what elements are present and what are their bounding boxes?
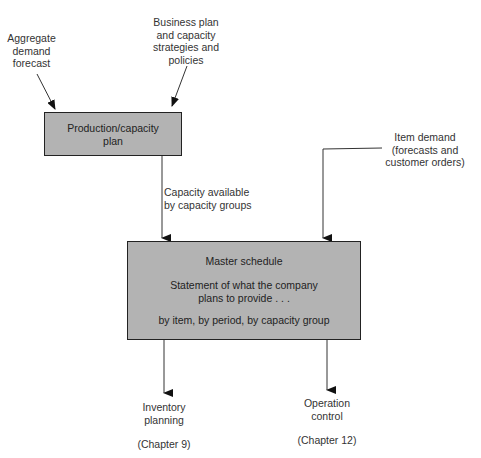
label-line: control bbox=[296, 410, 358, 423]
label-line: Business plan bbox=[146, 16, 226, 29]
label-line: and capacity bbox=[146, 29, 226, 42]
chapter-ref: (Chapter 9) bbox=[134, 438, 194, 451]
inventory-planning-label: Inventory planning (Chapter 9) bbox=[134, 401, 194, 451]
master-schedule-detail: by item, by period, by capacity group bbox=[128, 314, 360, 327]
aggregate-demand-label: Aggregate demand forecast bbox=[4, 32, 59, 70]
capacity-available-label: Capacity available by capacity groups bbox=[164, 186, 254, 211]
connector-arrows bbox=[0, 0, 481, 458]
business-plan-label: Business plan and capacity strategies an… bbox=[146, 16, 226, 66]
label-line: Inventory bbox=[134, 401, 194, 414]
label-line: Aggregate bbox=[4, 32, 59, 45]
operation-control-label: Operation control (Chapter 12) bbox=[296, 397, 358, 447]
production-capacity-plan-box: Production/capacity plan bbox=[44, 112, 182, 156]
box-line: plan bbox=[45, 135, 181, 148]
box-line: Statement of what the company bbox=[128, 279, 360, 292]
label-line: planning bbox=[134, 414, 194, 427]
label-line: forecast bbox=[4, 57, 59, 70]
label-line: policies bbox=[146, 54, 226, 67]
label-line: Capacity available bbox=[164, 186, 254, 199]
chapter-ref: (Chapter 12) bbox=[296, 434, 358, 447]
master-schedule-box: Master schedule Statement of what the co… bbox=[127, 241, 361, 340]
label-line: Operation bbox=[296, 397, 358, 410]
label-line: (forecasts and bbox=[382, 144, 468, 157]
box-line: Production/capacity bbox=[45, 122, 181, 135]
item-demand-label: Item demand (forecasts and customer orde… bbox=[382, 131, 468, 169]
label-line: customer orders) bbox=[382, 156, 468, 169]
label-line: demand bbox=[4, 45, 59, 58]
label-line: Item demand bbox=[382, 131, 468, 144]
label-line: strategies and bbox=[146, 41, 226, 54]
master-schedule-title: Master schedule bbox=[128, 255, 360, 268]
label-line: by capacity groups bbox=[164, 199, 254, 212]
box-line: plans to provide . . . bbox=[128, 292, 360, 305]
